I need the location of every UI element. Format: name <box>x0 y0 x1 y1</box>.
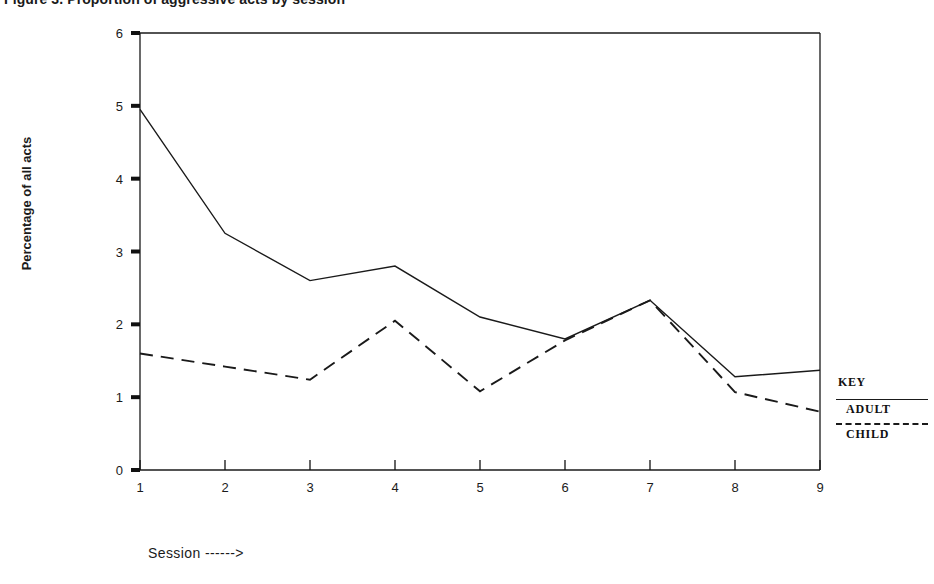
legend-swatch-dashed-line <box>836 423 928 425</box>
legend-entry-child: CHILD <box>836 423 934 442</box>
y-tick-label-1: 1 <box>116 390 123 405</box>
chart-legend: KEY ADULT CHILD <box>836 375 934 442</box>
legend-heading: KEY <box>838 375 934 390</box>
x-tick-label-2: 2 <box>221 480 228 495</box>
y-tick-label-4: 4 <box>116 172 123 187</box>
tick-label-group: 0123456123456789 <box>116 26 824 495</box>
y-tick-label-6: 6 <box>116 26 123 41</box>
line-chart-plot: 0123456123456789 <box>0 0 934 584</box>
legend-label-child: CHILD <box>846 427 934 442</box>
series-line-adult <box>140 109 820 376</box>
x-tick-label-1: 1 <box>136 480 143 495</box>
data-series-group <box>140 109 820 411</box>
y-tick-label-0: 0 <box>116 463 123 478</box>
x-tick-label-3: 3 <box>306 480 313 495</box>
x-tick-label-4: 4 <box>391 480 398 495</box>
figure-container: Figure 3. Proportion of aggressive acts … <box>0 0 934 584</box>
legend-entry-adult: ADULT <box>836 399 934 417</box>
axis-group <box>131 33 820 470</box>
y-tick-label-3: 3 <box>116 245 123 260</box>
x-tick-label-9: 9 <box>816 480 823 495</box>
y-tick-label-5: 5 <box>116 99 123 114</box>
x-tick-label-5: 5 <box>476 480 483 495</box>
x-tick-label-8: 8 <box>731 480 738 495</box>
y-tick-label-2: 2 <box>116 317 123 332</box>
legend-swatch-solid-line <box>836 399 928 400</box>
x-tick-label-7: 7 <box>646 480 653 495</box>
x-tick-label-6: 6 <box>561 480 568 495</box>
legend-label-adult: ADULT <box>846 402 934 417</box>
